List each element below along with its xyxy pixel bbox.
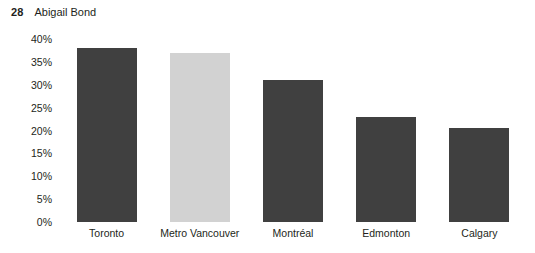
bar-chart: 40%35%30%25%20%15%10%5%0% TorontoMetro V… (0, 24, 535, 253)
y-axis-tick-label: 40% (0, 34, 52, 45)
bar-column[interactable] (263, 39, 323, 222)
y-axis-tick-label: 5% (0, 194, 52, 205)
y-axis: 40%35%30%25%20%15%10%5%0% (0, 39, 52, 222)
x-axis-category-label: Montréal (246, 227, 339, 239)
bar[interactable] (356, 117, 416, 222)
y-axis-tick-label: 25% (0, 102, 52, 113)
bar-column[interactable] (77, 39, 137, 222)
x-axis: TorontoMetro VancouverMontréalEdmontonCa… (60, 227, 526, 249)
bar[interactable] (449, 128, 509, 222)
chart-header: 28 Abigail Bond (0, 0, 96, 24)
x-axis-category-label: Metro Vancouver (153, 227, 246, 239)
bar-column[interactable] (449, 39, 509, 222)
y-axis-tick-label: 20% (0, 125, 52, 136)
bar[interactable] (170, 53, 230, 222)
chart-title-name: Abigail Bond (34, 6, 96, 18)
y-axis-tick-label: 15% (0, 148, 52, 159)
x-axis-category-label: Calgary (433, 227, 526, 239)
y-axis-tick-label: 30% (0, 80, 52, 91)
y-axis-tick-label: 35% (0, 57, 52, 68)
bar[interactable] (263, 80, 323, 222)
bar-column[interactable] (170, 39, 230, 222)
y-axis-tick-label: 0% (0, 217, 52, 228)
x-axis-category-label: Toronto (60, 227, 153, 239)
chart-number: 28 (11, 6, 23, 18)
bar-column[interactable] (356, 39, 416, 222)
y-axis-tick-label: 10% (0, 171, 52, 182)
plot-area (60, 39, 526, 222)
bar[interactable] (77, 48, 137, 222)
x-axis-category-label: Edmonton (340, 227, 433, 239)
